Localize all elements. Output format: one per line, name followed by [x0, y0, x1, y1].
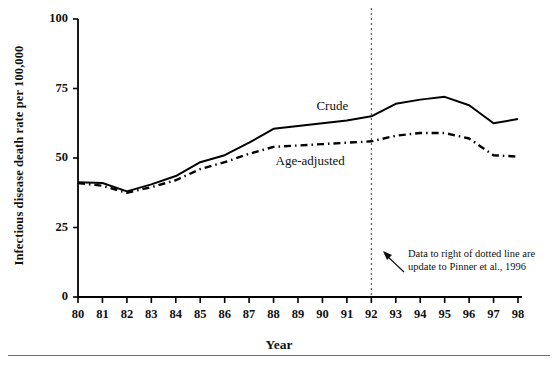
x-tick-label-81: 81: [89, 307, 115, 322]
x-tick-label-98: 98: [505, 307, 531, 322]
y-tick-label-100: 100: [36, 11, 68, 26]
figure-container: Infectious disease death rate per 100,00…: [0, 0, 558, 367]
x-tick-label-95: 95: [432, 307, 458, 322]
x-tick-label-80: 80: [65, 307, 91, 322]
x-tick-label-89: 89: [285, 307, 311, 322]
x-tick-label-91: 91: [334, 307, 360, 322]
x-tick-label-86: 86: [212, 307, 238, 322]
series-line-crude: [78, 97, 518, 192]
x-tick-label-94: 94: [407, 307, 433, 322]
x-axis-title: Year: [0, 337, 558, 353]
x-tick-label-90: 90: [309, 307, 335, 322]
y-tick-label-75: 75: [36, 81, 68, 96]
series-group: [78, 97, 518, 193]
x-tick-label-97: 97: [481, 307, 507, 322]
annotation-note-line-1: Data to right of dotted line are: [408, 247, 558, 260]
y-tick-label-50: 50: [36, 150, 68, 165]
series-label-crude: Crude: [316, 98, 348, 114]
y-tick-label-25: 25: [36, 220, 68, 235]
y-tick-label-0: 0: [36, 289, 68, 304]
annotation-note-line-2: update to Pinner et al., 1996: [408, 260, 558, 273]
x-tick-label-82: 82: [114, 307, 140, 322]
x-tick-label-83: 83: [138, 307, 164, 322]
x-tick-label-87: 87: [236, 307, 262, 322]
x-tick-label-84: 84: [163, 307, 189, 322]
x-tick-label-92: 92: [358, 307, 384, 322]
x-tick-label-96: 96: [456, 307, 482, 322]
annotation-note: Data to right of dotted line are update …: [408, 247, 558, 274]
annotation-arrow-group: [383, 251, 404, 272]
x-tick-label-88: 88: [261, 307, 287, 322]
x-tick-label-93: 93: [383, 307, 409, 322]
series-label-age-adjusted: Age-adjusted: [276, 153, 345, 169]
x-tick-label-85: 85: [187, 307, 213, 322]
bottom-divider-rule: [8, 355, 550, 356]
